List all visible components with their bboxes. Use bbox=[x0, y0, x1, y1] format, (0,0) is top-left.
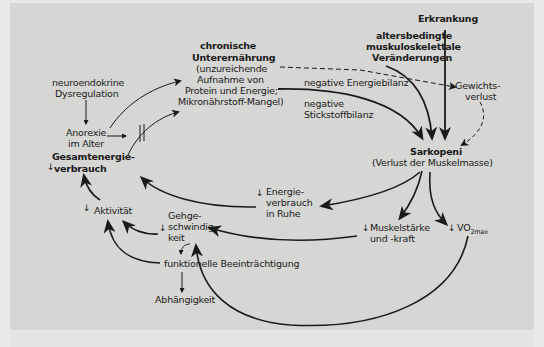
node-sarkopeni-1: Sarkopeni bbox=[410, 146, 462, 158]
decrease-arrow: ↓ bbox=[83, 203, 91, 213]
node-gesamtenergie-2: verbrauch bbox=[54, 163, 107, 175]
arrow-gehge-aktivitaet bbox=[124, 222, 158, 234]
arrow-sarkopeni-energieruhe bbox=[322, 172, 420, 206]
label-negative-stickstoff-2: Stickstoffbilanz bbox=[304, 109, 373, 121]
node-gewicht-2: verlust bbox=[465, 91, 496, 103]
decrease-arrow: ↓ bbox=[256, 188, 264, 198]
node-anorexie-2: im Alter bbox=[68, 138, 104, 150]
arrow-aktivitaet-gesamt bbox=[84, 176, 100, 200]
arrow-muskel-gehge bbox=[210, 228, 357, 240]
node-chronisch-6: Mikronährstoff-Mangel) bbox=[178, 96, 284, 108]
decrease-arrow: ↓ bbox=[448, 223, 456, 233]
node-neuro-2: Dysregulation bbox=[55, 88, 119, 100]
arrow-funktionell-curl bbox=[181, 244, 190, 254]
node-energie-ruhe-1: Energie- bbox=[266, 186, 304, 198]
arrow-energieruhe-gesamt bbox=[142, 178, 256, 207]
node-chronisch-3: (unzureichende bbox=[196, 63, 267, 75]
arrow-gewicht-sarkopeni bbox=[462, 102, 484, 145]
node-chronisch-4: Aufnahme von bbox=[197, 74, 264, 86]
node-gehge-3: keit bbox=[168, 232, 185, 244]
node-funktionelle-beeintraechtigung: funktionelle Beeinträchtigung bbox=[164, 258, 299, 270]
node-erkrankung: Erkrankung bbox=[418, 13, 478, 25]
node-vo2max: VO2max bbox=[457, 222, 488, 238]
node-neuro-1: neuroendokrine bbox=[52, 77, 124, 89]
node-abhaengigkeit: Abhängigkeit bbox=[155, 294, 215, 306]
vo2-subscript: 2max bbox=[470, 228, 488, 236]
decrease-arrow: ↓ bbox=[362, 223, 370, 233]
node-sarkopeni-2: (Verlust der Muskelmasse) bbox=[372, 157, 493, 169]
node-chronisch-2: Unterernährung bbox=[192, 52, 275, 64]
vo2-text: VO bbox=[457, 222, 470, 233]
node-gewicht-1: Gewichts- bbox=[455, 80, 500, 92]
node-energie-ruhe-2: verbrauch bbox=[266, 197, 313, 209]
node-chronisch-5: Protein und Energie; bbox=[185, 85, 278, 97]
node-aktivitaet: Aktivität bbox=[94, 205, 132, 217]
node-altersbedingt-3: Veränderungen bbox=[372, 52, 452, 64]
label-negative-stickstoff-1: negative bbox=[304, 98, 344, 110]
decrease-arrow: ↓ bbox=[159, 223, 167, 233]
arrow-gesamt-unterernaehrung bbox=[128, 112, 178, 155]
arrow-funktionell-aktivitaet bbox=[108, 222, 160, 263]
node-gehge-2: schwindig- bbox=[168, 221, 217, 233]
arrow-sarkopeni-vo2 bbox=[430, 172, 446, 224]
node-muskelstaerke-1: Muskelstärke bbox=[370, 222, 430, 234]
node-gehge-1: Gehge- bbox=[168, 210, 201, 222]
node-gesamtenergie-1: Gesamtenergie- bbox=[52, 151, 135, 163]
label-negative-energiebilanz: negative Energiebilanz bbox=[304, 77, 408, 89]
arrow-vo2-funktionell bbox=[196, 236, 468, 326]
node-muskelstaerke-2: und -kraft bbox=[370, 233, 415, 245]
node-altersbedingt-1: altersbedingte bbox=[376, 30, 452, 42]
node-anorexie-1: Anorexie bbox=[66, 127, 106, 139]
node-energie-ruhe-3: in Ruhe bbox=[266, 208, 300, 220]
node-altersbedingt-2: muskuloskelettale bbox=[366, 41, 461, 53]
node-chronisch-1: chronische bbox=[200, 40, 256, 52]
